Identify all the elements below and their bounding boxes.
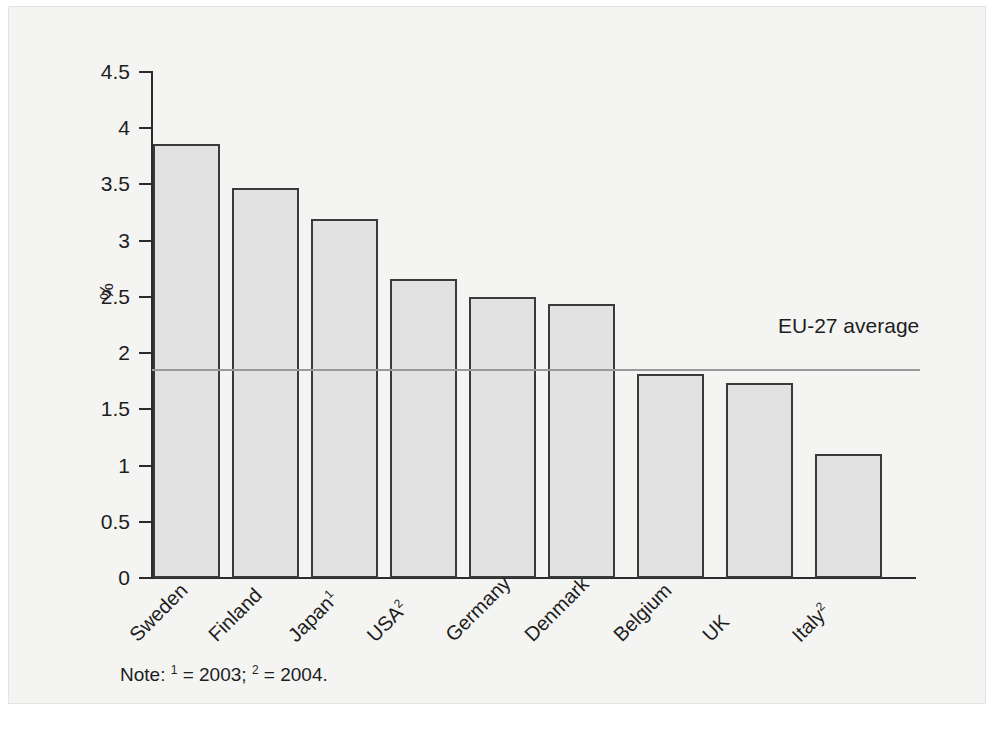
x-label-germany: Germany bbox=[441, 572, 515, 646]
y-axis-tick bbox=[139, 465, 152, 467]
x-label-belgium: Belgium bbox=[609, 579, 676, 646]
x-label-text: Sweden bbox=[125, 579, 192, 646]
y-axis-tick-label: 1 bbox=[84, 455, 130, 476]
y-axis-tick bbox=[139, 577, 152, 579]
figure-note: Note: 1 = 2003; 2 = 2004. bbox=[120, 663, 328, 686]
x-label-text: Finland bbox=[204, 584, 266, 646]
note-text-1: = 2003; bbox=[183, 664, 247, 685]
note-mark-1: 1 bbox=[171, 663, 178, 677]
y-axis-tick-label: 1.5 bbox=[84, 398, 130, 419]
y-axis-tick-label: 2 bbox=[84, 342, 130, 363]
y-axis-tick-label: 0.5 bbox=[84, 511, 130, 532]
y-axis-tick-label: 3.5 bbox=[84, 173, 130, 194]
x-label-text: Denmark bbox=[520, 573, 593, 646]
y-axis-tick bbox=[139, 240, 152, 242]
y-axis-tick bbox=[139, 296, 152, 298]
bar-japan bbox=[311, 219, 378, 578]
bar-usa bbox=[390, 279, 457, 578]
x-label-japan: Japan1 bbox=[283, 587, 343, 647]
note-prefix: Note: bbox=[120, 664, 165, 685]
x-label-italy: Italy2 bbox=[787, 599, 834, 646]
bar-uk bbox=[726, 383, 793, 578]
y-axis-tick bbox=[139, 408, 152, 410]
bar-italy bbox=[815, 454, 882, 578]
y-axis-tick bbox=[139, 521, 152, 523]
x-label-text: Belgium bbox=[609, 579, 676, 646]
y-axis-tick bbox=[139, 127, 152, 129]
eu-27-average-label: EU-27 average bbox=[778, 314, 919, 338]
x-label-text: Japan bbox=[283, 592, 337, 646]
y-axis-tick-label: 4 bbox=[84, 117, 130, 138]
note-mark-2: 2 bbox=[252, 663, 259, 677]
y-axis-tick-label: 3 bbox=[84, 230, 130, 251]
x-label-text: Germany bbox=[441, 572, 515, 646]
x-label-text: UK bbox=[698, 610, 733, 645]
y-axis-tick-label: 0 bbox=[84, 567, 130, 588]
figure: % 00.511.522.533.544.5 EU-27 average Swe… bbox=[0, 0, 1004, 750]
x-label-uk: UK bbox=[698, 610, 734, 646]
x-label-finland: Finland bbox=[204, 584, 267, 647]
y-axis-tick bbox=[139, 71, 152, 73]
x-label-denmark: Denmark bbox=[520, 573, 594, 647]
bar-germany bbox=[469, 297, 536, 578]
bar-chart-plot-area: % 00.511.522.533.544.5 EU-27 average Swe… bbox=[0, 0, 1004, 750]
eu-27-average-line bbox=[152, 369, 920, 371]
bar-belgium bbox=[637, 374, 704, 578]
y-axis-tick bbox=[139, 183, 152, 185]
x-label-sweden: Sweden bbox=[125, 579, 192, 646]
y-axis-tick-label: 2.5 bbox=[84, 286, 130, 307]
y-axis-tick bbox=[139, 352, 152, 354]
bar-finland bbox=[232, 188, 299, 578]
y-axis-tick-label: 4.5 bbox=[84, 61, 130, 82]
note-text-2: = 2004. bbox=[264, 664, 328, 685]
bar-denmark bbox=[548, 304, 615, 578]
bar-sweden bbox=[153, 144, 220, 578]
x-label-usa: USA2 bbox=[362, 596, 413, 647]
